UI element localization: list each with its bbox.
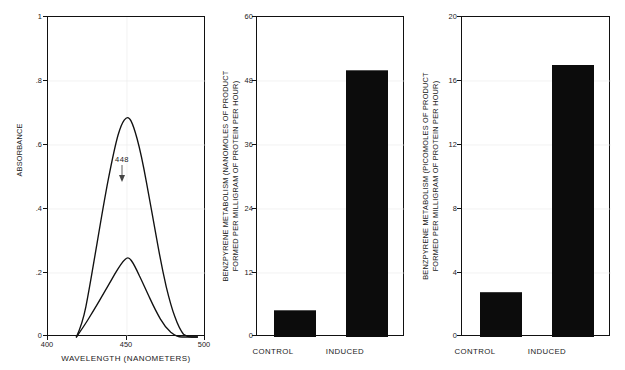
- y-tick-label-4: 4: [441, 269, 457, 276]
- y-tick-label-0-2: .2: [24, 269, 42, 276]
- y-tick-label-36: 36: [237, 141, 253, 148]
- peak-label-448: 448: [104, 155, 140, 164]
- y-tick-label-1: 1: [24, 13, 42, 20]
- y-tick-label-0-6: .6: [24, 141, 42, 148]
- x-tick-label-450: 450: [112, 341, 140, 348]
- x-axis-title-wavelength: WAVELENGTH (NANOMETERS): [41, 354, 211, 363]
- y-tick-label-0: 0: [237, 332, 253, 339]
- panel-absorbance-spectrum: ABSORBANCE 1 .8 .6 .4 .2 0: [0, 0, 215, 370]
- plot-area-picomoles: [461, 16, 610, 336]
- bar-control-picomoles: [480, 292, 522, 337]
- bar-control-nanomoles: [274, 310, 316, 337]
- y-axis-title-nanomoles-line1: BENZPYRENE METABOLISM (NANOMOLES OF PROD…: [222, 16, 231, 336]
- y-tick-label-16: 16: [441, 77, 457, 84]
- y-tick-label-0: 0: [441, 332, 457, 339]
- peak-arrow-icon: [115, 165, 131, 183]
- bar-induced-picomoles: [552, 65, 594, 337]
- y-tick-label-12: 12: [441, 141, 457, 148]
- y-tick-label-0-8: .8: [24, 77, 42, 84]
- curve-induced-spectrum: [76, 118, 197, 337]
- panel-benzpyrene-picomoles: BENZPYRENE METABOLISM (PICOMOLES OF PROD…: [415, 0, 625, 370]
- bar-induced-nanomoles: [346, 70, 388, 337]
- y-tick-label-0: 0: [24, 332, 42, 339]
- x-tick-label-400: 400: [33, 341, 61, 348]
- y-axis-title-picomoles-line1: BENZPYRENE METABOLISM (PICOMOLES OF PROD…: [422, 16, 431, 336]
- curve-control-spectrum: [76, 258, 197, 337]
- x-tick-label-500: 500: [190, 341, 218, 348]
- y-tick-label-8: 8: [441, 205, 457, 212]
- y-axis-title-nanomoles-line2: FORMED PER MILLIGRAM OF PROTEIN PER HOUR…: [232, 16, 241, 336]
- y-tick-label-20: 20: [441, 13, 457, 20]
- y-axis-title-picomoles-line2: FORMED PER MILLIGRAM OF PROTEIN PER HOUR…: [432, 16, 441, 336]
- category-label-control: CONTROL: [243, 347, 303, 356]
- y-tick-label-60: 60: [237, 13, 253, 20]
- bar-chart-nanomoles-svg: [257, 17, 405, 337]
- y-tick-label-48: 48: [237, 77, 253, 84]
- category-label-control: CONTROL: [445, 347, 505, 356]
- y-tick-label-0-4: .4: [24, 205, 42, 212]
- category-label-induced: INDUCED: [517, 347, 577, 356]
- category-label-induced: INDUCED: [315, 347, 375, 356]
- y-tick-label-12: 12: [237, 269, 253, 276]
- plot-area-nanomoles: [256, 16, 404, 336]
- three-panel-scientific-figure: ABSORBANCE 1 .8 .6 .4 .2 0: [0, 0, 625, 370]
- bar-chart-picomoles-svg: [462, 17, 611, 337]
- panel-benzpyrene-nanomoles: BENZPYRENE METABOLISM (NANOMOLES OF PROD…: [215, 0, 415, 370]
- y-tick-label-24: 24: [237, 205, 253, 212]
